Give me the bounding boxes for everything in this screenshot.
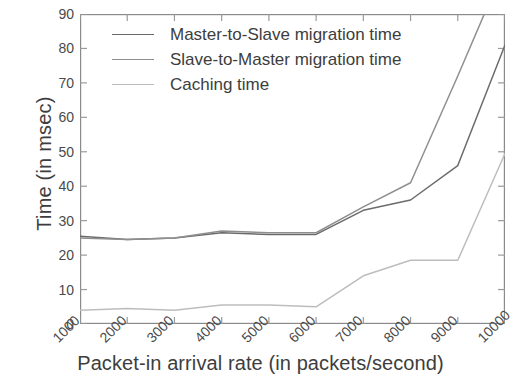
- legend-line-swatch: [112, 34, 154, 35]
- legend-label: Master-to-Slave migration time: [170, 26, 401, 43]
- chart-legend: Master-to-Slave migration timeSlave-to-M…: [112, 22, 412, 97]
- x-axis-tick-label: 7000: [333, 313, 365, 345]
- x-axis-tick-label: 1000: [50, 313, 82, 345]
- legend-item: Caching time: [112, 72, 412, 97]
- x-axis-tick-label: 8000: [381, 313, 413, 345]
- legend-label: Slave-to-Master migration time: [170, 51, 401, 68]
- x-axis-title: Packet-in arrival rate (in packets/secon…: [0, 352, 521, 375]
- x-axis-tick-label: 3000: [144, 313, 176, 345]
- legend-line-swatch: [112, 59, 154, 60]
- x-axis-tick-label: 4000: [192, 313, 224, 345]
- x-axis-tick-label: 2000: [97, 313, 129, 345]
- x-axis-tick-label: 10000: [475, 307, 512, 344]
- x-axis-tick-label: 5000: [239, 313, 271, 345]
- legend-item: Master-to-Slave migration time: [112, 22, 412, 47]
- legend-item: Slave-to-Master migration time: [112, 47, 412, 72]
- legend-label: Caching time: [170, 76, 269, 93]
- chart-figure: Time (in msec) 0102030405060708090 10002…: [0, 0, 521, 386]
- legend-line-swatch: [112, 84, 154, 85]
- x-axis-tick-label: 6000: [286, 313, 318, 345]
- x-axis-tick-label: 9000: [428, 313, 460, 345]
